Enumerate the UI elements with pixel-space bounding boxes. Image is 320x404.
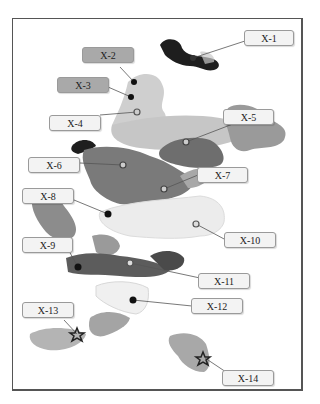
label-x1[interactable]: X-1 — [244, 30, 294, 46]
marker-x9[interactable] — [75, 264, 82, 271]
region-x12 — [96, 282, 149, 314]
label-x9[interactable]: X-9 — [22, 237, 73, 253]
figure-caption-illegible — [70, 394, 250, 404]
label-x14[interactable]: X-14 — [222, 370, 274, 386]
marker-x5[interactable] — [183, 139, 189, 145]
marker-x10[interactable] — [193, 221, 199, 227]
marker-x2[interactable] — [131, 79, 137, 85]
label-x12[interactable]: X-12 — [191, 298, 243, 314]
label-x4[interactable]: X-4 — [49, 115, 101, 131]
label-x13[interactable]: X-13 — [22, 302, 74, 318]
label-x10[interactable]: X-10 — [224, 232, 276, 248]
marker-x1[interactable] — [190, 55, 196, 61]
marker-x4[interactable] — [134, 109, 140, 115]
label-x3[interactable]: X-3 — [57, 77, 109, 93]
marker-x8[interactable] — [105, 211, 112, 218]
marker-x12[interactable] — [130, 297, 137, 304]
marker-x11[interactable] — [127, 260, 133, 266]
label-x11[interactable]: X-11 — [198, 273, 250, 289]
marker-x3[interactable] — [128, 94, 134, 100]
label-x5[interactable]: X-5 — [223, 109, 274, 125]
marker-x6[interactable] — [120, 162, 126, 168]
region-x13 — [89, 312, 130, 336]
label-x7[interactable]: X-7 — [197, 167, 248, 183]
label-x8[interactable]: X-8 — [22, 188, 74, 204]
marker-x7[interactable] — [161, 186, 167, 192]
label-x6[interactable]: X-6 — [28, 157, 80, 173]
label-x2[interactable]: X-2 — [82, 47, 134, 63]
